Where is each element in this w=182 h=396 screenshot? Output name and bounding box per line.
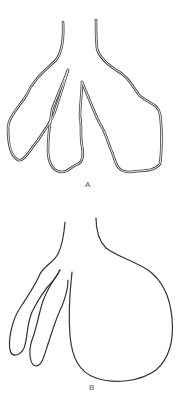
figure-a: A [0,0,182,200]
figure-a-label: A [85,181,90,189]
figure-b-label: B [89,384,94,392]
figure-b: B [0,200,182,396]
figure-b-drawing [0,200,182,396]
figure-a-drawing [0,0,182,200]
